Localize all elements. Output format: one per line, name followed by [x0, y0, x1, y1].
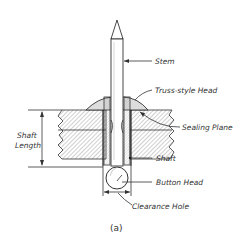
shaft-length-label-line1: Shaft: [17, 131, 38, 140]
shaft-label: Shaft: [156, 154, 177, 163]
right-plates: [130, 110, 174, 159]
truss-head-label: Truss-style Head: [155, 86, 218, 95]
rivet-diagram: Shaft Length Stem Truss-style Head Seali…: [0, 0, 251, 252]
button-head-label: Button Head: [156, 178, 203, 187]
left-plates: [58, 110, 106, 159]
sealing-plane-label: Sealing Plane: [182, 123, 233, 132]
clearance-hole-label: Clearance Hole: [132, 202, 189, 211]
figure-caption: (a): [110, 223, 123, 233]
stem-label: Stem: [155, 57, 175, 66]
button-head: [106, 167, 128, 189]
stem: [111, 20, 123, 166]
shaft-length-label-line2: Length: [15, 141, 41, 150]
